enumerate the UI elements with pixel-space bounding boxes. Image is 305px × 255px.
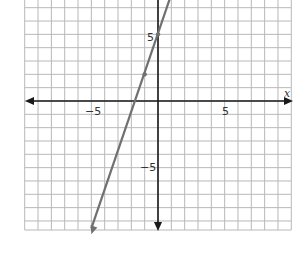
x-axis-label: x xyxy=(284,87,291,100)
x-tick-label-neg5: −5 xyxy=(85,105,101,118)
x-tick-label-5: 5 xyxy=(222,105,229,118)
coordinate-plane: −5 5 5 −5 x xyxy=(0,0,305,255)
marked-point xyxy=(156,32,160,36)
y-tick-label-5: 5 xyxy=(147,31,154,44)
x-axis-left-arrow-icon xyxy=(25,97,34,105)
marked-point xyxy=(142,72,146,76)
y-tick-label-neg5: −5 xyxy=(140,161,156,174)
